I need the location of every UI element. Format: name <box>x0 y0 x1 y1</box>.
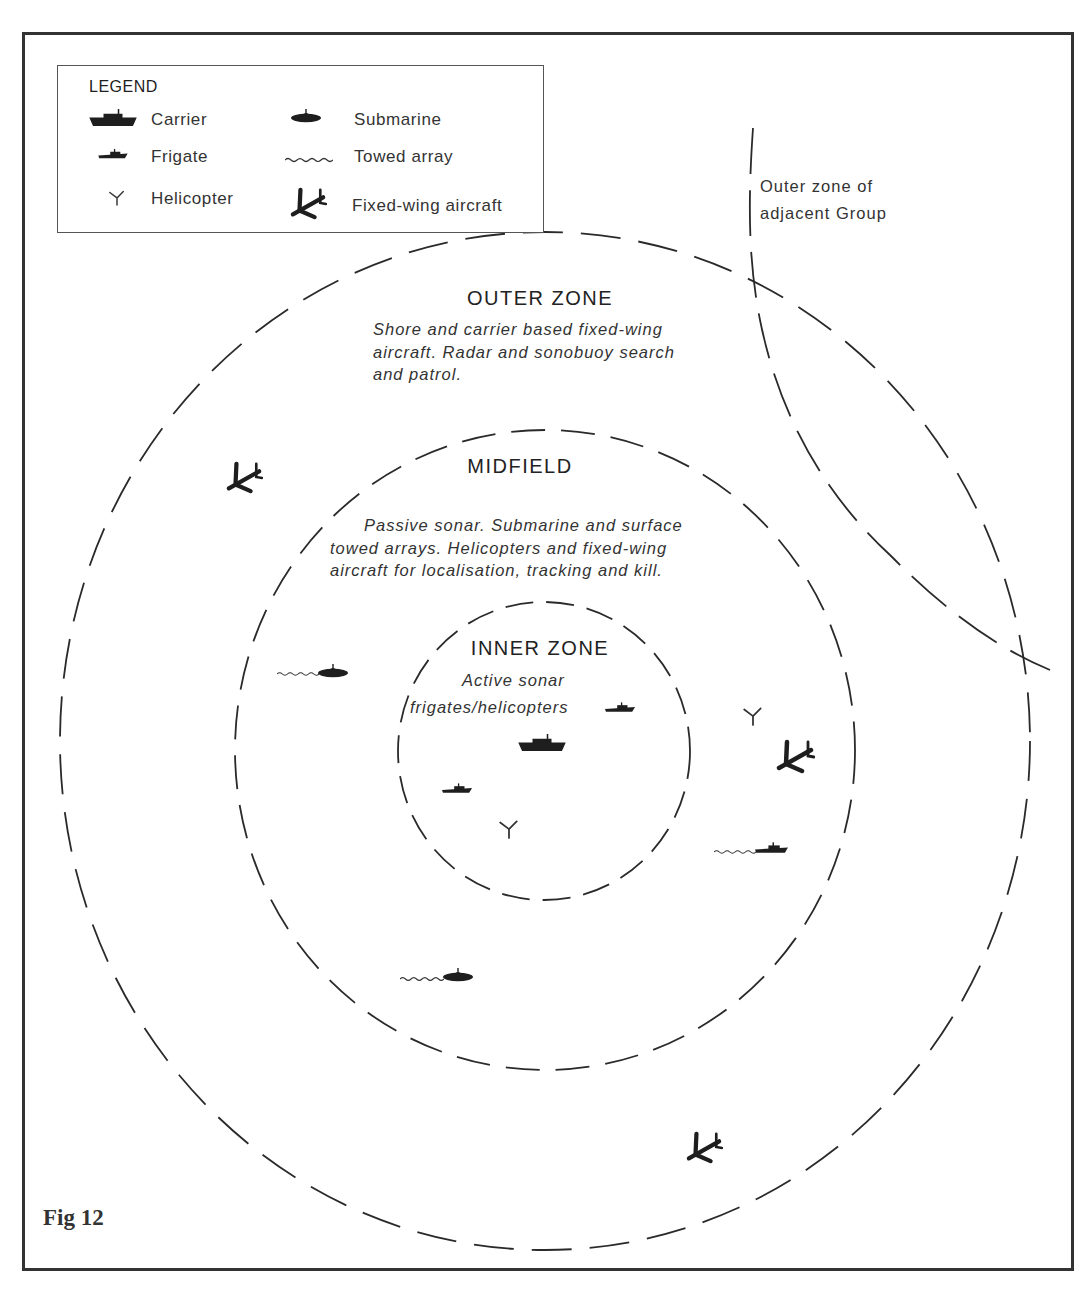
inner-zone-description: Active sonar frigates/helicopters <box>410 667 600 721</box>
midfield-description: Passive sonar. Submarine and surface tow… <box>330 514 740 582</box>
midfield-title: MIDFIELD <box>440 455 600 478</box>
legend-label-carrier: Carrier <box>151 110 207 130</box>
towed-array-icon <box>714 849 756 855</box>
legend-label-submarine: Submarine <box>354 110 442 130</box>
legend-label-helicopter: Helicopter <box>151 189 234 209</box>
inner-zone-title: INNER ZONE <box>450 637 630 660</box>
asw-zones-diagram: LEGEND Carrier Submarine Frigate Towed a… <box>0 0 1088 1293</box>
frigate-icon <box>442 783 472 795</box>
adjacent-group-label: Outer zone of adjacent Group <box>760 173 887 227</box>
fixed-wing-aircraft-icon <box>775 738 815 774</box>
towed-array-icon <box>285 157 333 163</box>
legend-label-frigate: Frigate <box>151 147 208 167</box>
figure-label: Fig 12 <box>43 1205 104 1231</box>
outer-zone-description: Shore and carrier based fixed-wing aircr… <box>373 318 733 386</box>
legend-title: LEGEND <box>89 78 158 96</box>
helicopter-icon <box>742 704 764 726</box>
helicopter-icon <box>108 188 126 206</box>
fixed-wing-aircraft-icon <box>225 460 263 494</box>
carrier-icon <box>518 734 566 753</box>
submarine-icon <box>443 968 473 982</box>
frigate-icon <box>98 149 128 160</box>
fixed-wing-aircraft-icon <box>289 186 327 220</box>
legend-label-fixed-wing-aircraft: Fixed-wing aircraft <box>352 196 502 216</box>
carrier-icon <box>89 109 137 128</box>
frigate-icon <box>755 842 788 855</box>
helicopter-icon <box>498 817 520 839</box>
fixed-wing-aircraft-icon <box>685 1130 723 1164</box>
legend: LEGEND Carrier Submarine Frigate Towed a… <box>57 65 544 233</box>
legend-label-towed-array: Towed array <box>354 147 453 167</box>
submarine-icon <box>318 664 348 678</box>
towed-array-icon <box>400 976 444 982</box>
towed-array-icon <box>277 671 319 677</box>
submarine-icon <box>291 109 321 123</box>
outer-zone-title: OUTER ZONE <box>440 287 640 310</box>
frigate-icon <box>605 702 635 714</box>
